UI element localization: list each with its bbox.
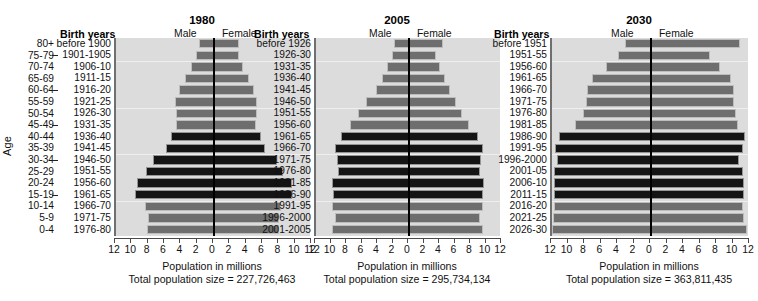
plot-area [550,38,748,236]
birth-years-label: 1966-70 [52,200,111,212]
male-bar [337,155,409,164]
panel-title: 2005 [274,14,520,26]
birth-years-label: 1921-25 [52,96,111,108]
x-tick-label: 4 [373,244,379,255]
male-bar [176,120,214,129]
x-tick-labels: 12108642024681012 [314,244,500,258]
female-bar [651,62,720,71]
male-bar [175,97,214,106]
x-tick [114,238,115,243]
x-tick-label: 10 [324,244,336,255]
female-bar [409,85,450,94]
male-bar [555,144,651,153]
female-bar [651,144,743,153]
x-tick-label: 8 [712,244,718,255]
x-tick-label: 6 [696,244,702,255]
x-tick [567,238,568,243]
female-bar [409,178,484,187]
x-tick [682,238,683,243]
age-label: 15-19 [2,189,54,201]
center-axis-line [650,38,652,236]
x-tick-label: 2 [420,244,426,255]
age-label: 50-54 [2,108,54,120]
birth-years-label: 2021-25 [486,212,547,224]
x-tick-label: 4 [613,244,619,255]
x-tick [361,238,362,243]
male-bar [153,155,214,164]
male-bar [332,202,409,211]
age-label: 45-49 [2,119,54,131]
x-tick [407,238,408,243]
male-bar [176,109,214,118]
female-bar [409,62,440,71]
panel-2030: 2030Birth yearsMaleFemalebefore 19511951… [492,0,754,301]
male-bar [606,62,651,71]
male-bar [171,132,214,141]
x-tick-label: 12 [108,244,120,255]
x-tick-label: 0 [646,244,652,255]
male-bar [394,39,410,48]
male-bar [135,190,214,199]
birth-years-label: 1901-1905 [52,49,111,61]
age-label: 60-64 [2,84,54,96]
birth-years-label: 1916-20 [52,84,111,96]
x-tick-label: 12 [308,244,320,255]
male-bar [554,202,651,211]
male-bar [587,85,651,94]
age-label: 25-29 [2,166,54,178]
x-tick [469,238,470,243]
x-tick [583,238,584,243]
birth-years-label: 1951-55 [52,165,111,177]
female-bar [651,178,744,187]
x-tick [649,238,650,243]
x-tick-label: 2 [193,244,199,255]
male-bar [387,62,409,71]
male-bar [554,190,651,199]
x-tick-label: 4 [176,244,182,255]
female-bar [409,167,480,176]
age-label: 5-9 [2,212,54,224]
x-tick-label: 8 [144,244,150,255]
plot-area [314,38,500,236]
birth-years-label: 1941-45 [246,84,311,96]
male-bar [332,225,409,234]
male-bar [196,51,214,60]
birth-years-label: 2006-10 [486,177,547,189]
x-tick [228,238,229,243]
birth-years-label: 1981-85 [486,119,547,131]
male-bar [557,155,651,164]
female-bar [409,144,483,153]
x-tick [314,238,315,243]
male-bar [583,109,651,118]
male-bar [382,74,409,83]
male-bar [145,202,214,211]
birth-years-label: 2001-05 [486,165,547,177]
female-bar [409,202,483,211]
age-label: 40-44 [2,131,54,143]
x-tick-label: 4 [435,244,441,255]
female-bar [409,120,469,129]
x-tick [732,238,733,243]
age-label: 10-14 [2,200,54,212]
male-bar [552,225,651,234]
birth-years-label: 2001-2005 [246,224,311,236]
age-label: 70-74 [2,61,54,73]
female-bar [651,155,739,164]
x-tick [163,238,164,243]
center-axis-line [408,38,410,236]
female-bar [409,190,483,199]
birth-years-label: 1951-55 [486,49,547,61]
male-bar [554,178,651,187]
x-tick [212,238,213,243]
birth-years-label: 1996-2000 [246,212,311,224]
birth-years-label: 1976-80 [246,165,311,177]
x-tick-label: 6 [160,244,166,255]
x-tick [485,238,486,243]
male-bar [592,74,651,83]
age-tick-labels: 80+75-7970-7465-6960-6455-5950-5445-4940… [2,38,54,235]
birth-years-label: 1936-40 [52,131,111,143]
birth-years-label: 2011-15 [486,189,547,201]
x-tick-label: 8 [580,244,586,255]
birth-years-label: 1906-10 [52,61,111,73]
male-bar [366,97,409,106]
